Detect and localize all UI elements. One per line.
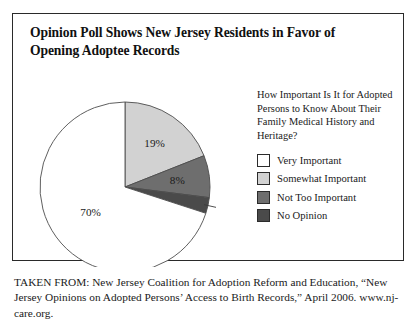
legend-item-label: No Opinion <box>277 210 327 222</box>
legend-swatch-icon <box>257 209 270 222</box>
chart-legend: How Important Is It for Adopted Persons … <box>257 88 407 227</box>
chart-panel: Opinion Poll Shows New Jersey Residents … <box>12 13 404 261</box>
legend-swatch-icon <box>257 154 270 167</box>
pie-slice-label: 19% <box>144 137 165 149</box>
pie-chart: 70%19%8%3% <box>26 87 216 267</box>
legend-item: Not Too Important <box>257 190 407 205</box>
legend-question: How Important Is It for Adopted Persons … <box>257 88 405 143</box>
legend-swatch-icon <box>257 191 270 204</box>
legend-list: Very ImportantSomewhat ImportantNot Too … <box>257 153 407 224</box>
pie-slice-label: 70% <box>80 206 101 218</box>
pie-slice-label: 8% <box>170 174 185 186</box>
figure-root: Opinion Poll Shows New Jersey Residents … <box>0 0 419 336</box>
legend-swatch-icon <box>257 172 270 185</box>
legend-item-label: Very Important <box>277 155 341 167</box>
pie-chart-svg: 70%19%8%3% <box>26 87 216 267</box>
legend-item: No Opinion <box>257 208 407 223</box>
source-note: TAKEN FROM: New Jersey Coalition for Ado… <box>14 275 406 321</box>
legend-item-label: Somewhat Important <box>277 173 366 185</box>
legend-item: Very Important <box>257 153 407 168</box>
legend-item-label: Not Too Important <box>277 192 356 204</box>
legend-item: Somewhat Important <box>257 171 407 186</box>
page-title: Opinion Poll Shows New Jersey Residents … <box>30 24 380 60</box>
